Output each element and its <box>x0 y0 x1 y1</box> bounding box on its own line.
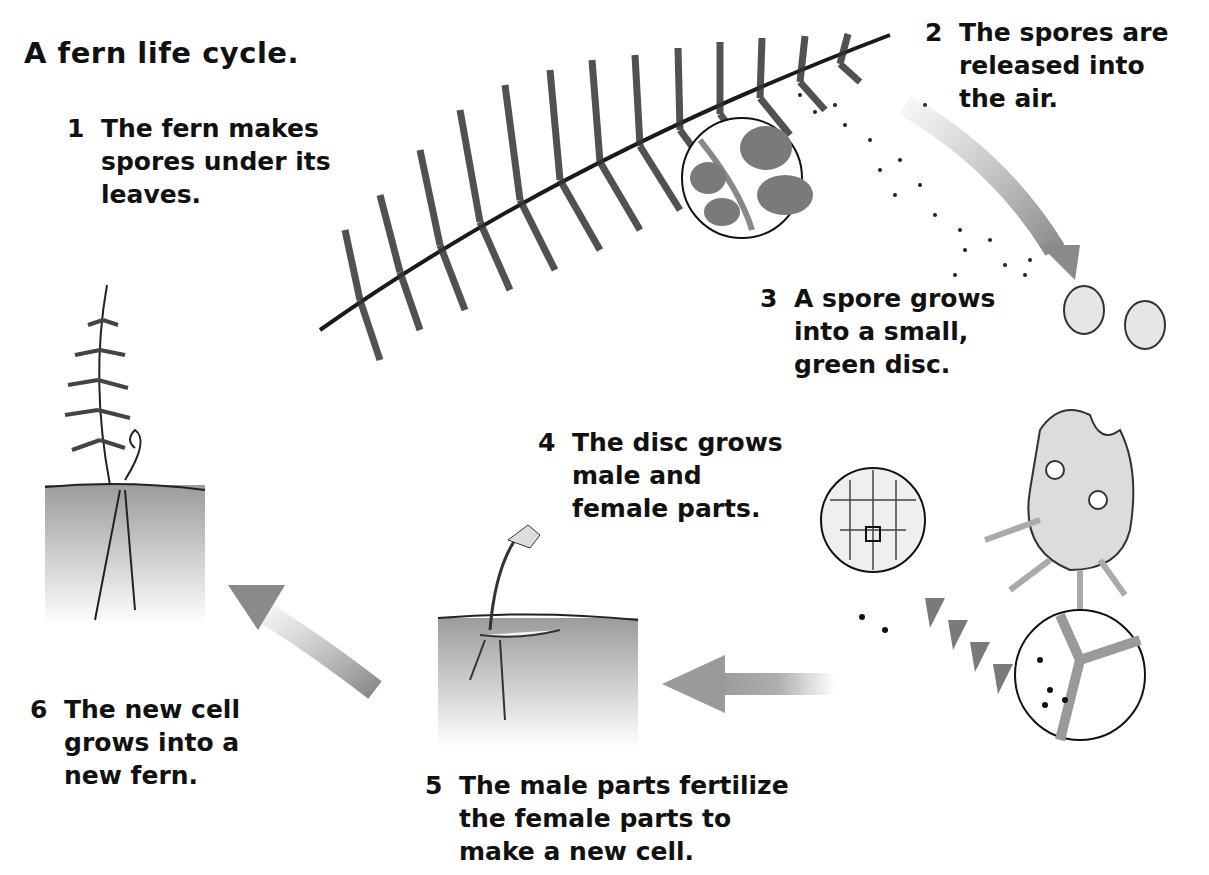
step-text-line: green disc. <box>794 348 995 381</box>
step-text: make a new <box>459 837 636 866</box>
step-text-line: The new cell <box>64 693 240 726</box>
female-part-magnifier-icon <box>1015 610 1145 740</box>
step-3-caption: 3 A spore grows into a small, green disc… <box>794 282 995 381</box>
arrow-step4-to-5-icon <box>720 673 835 695</box>
step-5-caption: 5 The male parts fertilize the female pa… <box>459 769 789 868</box>
chevron-arrows-icon <box>925 598 1013 694</box>
step-text: . <box>685 837 695 866</box>
step-text-line: released into <box>959 49 1169 82</box>
new-fern-in-soil-icon <box>45 285 205 625</box>
step-text-line: female parts. <box>572 492 783 525</box>
step-text-line: spores under its <box>101 145 331 178</box>
step-text-line: leaves. <box>101 178 331 211</box>
young-fern-in-soil-icon <box>438 525 638 748</box>
step-text-line: grows into a <box>64 726 240 759</box>
step-text-line: the female parts to <box>459 802 789 835</box>
step-text-line: male and <box>572 459 783 492</box>
arrow-step2-to-3-icon <box>905 105 1055 250</box>
step-text-line: The disc grows <box>572 426 783 459</box>
step-text-line: new fern. <box>64 759 240 792</box>
keyword-fertilize: fertilize <box>679 771 788 800</box>
step-text: The male parts <box>459 771 679 800</box>
step-2-caption: 2 The spores are released into the air. <box>959 16 1169 115</box>
spore-inset-magnifier-icon <box>682 118 813 238</box>
disc-with-parts-icon <box>985 410 1133 610</box>
step-1-caption: 1 The fern makes spores under its leaves… <box>101 112 331 211</box>
step-text-line: into a small, <box>794 315 995 348</box>
step-text-line: The fern makes <box>101 112 331 145</box>
step-number: 1 <box>67 112 84 145</box>
step-number: 2 <box>925 16 942 49</box>
step-4-caption: 4 The disc grows male and female parts. <box>572 426 783 525</box>
arrow-head-icon <box>1040 245 1080 280</box>
step-number: 4 <box>538 426 555 459</box>
step-6-caption: 6 The new cell grows into a new fern. <box>64 693 240 792</box>
step-text-line: A spore grows <box>794 282 995 315</box>
step-number: 5 <box>425 769 442 802</box>
step-number: 6 <box>30 693 47 726</box>
step-number: 3 <box>760 282 777 315</box>
keyword-cell: cell <box>636 837 685 866</box>
step-text-line: The spores are <box>959 16 1169 49</box>
male-part-magnifier-icon <box>821 468 925 572</box>
small-green-discs-icon <box>1064 286 1165 349</box>
arrow-step5-to-6-icon <box>260 610 375 690</box>
step-text-line: the air. <box>959 82 1169 115</box>
